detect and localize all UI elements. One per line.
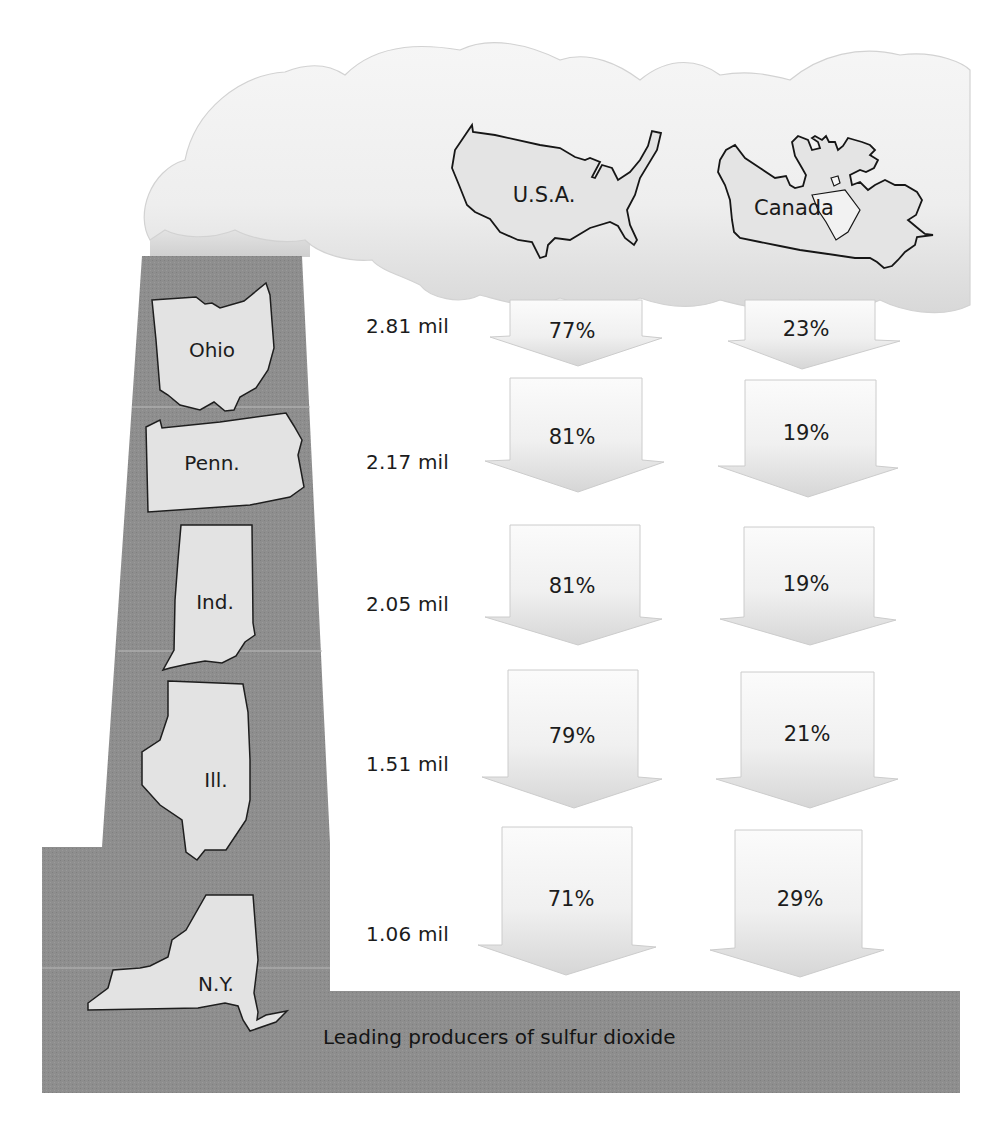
chart-title: Leading producers of sulfur dioxide: [323, 1025, 676, 1049]
emissions-penn: 2.17 mil: [366, 450, 449, 474]
usa-pct-penn: 81%: [549, 425, 596, 449]
canada-pct-ny: 29%: [777, 887, 824, 911]
state-label-penn: Penn.: [184, 451, 239, 475]
arrows-usa: [478, 300, 664, 975]
canada-pct-penn: 19%: [783, 421, 830, 445]
arrows-canada: [710, 300, 900, 977]
canada-pct-ind: 19%: [783, 572, 830, 596]
infographic-graphics: [0, 0, 1006, 1122]
canada-pct-ohio: 23%: [783, 317, 830, 341]
state-label-ind: Ind.: [196, 590, 234, 614]
emissions-ill: 1.51 mil: [366, 752, 449, 776]
state-label-ill: Ill.: [204, 768, 227, 792]
usa-pct-ohio: 77%: [549, 319, 596, 343]
usa-pct-ind: 81%: [549, 574, 596, 598]
usa-pct-ill: 79%: [549, 724, 596, 748]
emissions-ohio: 2.81 mil: [366, 314, 449, 338]
emissions-ny: 1.06 mil: [366, 922, 449, 946]
country-label-usa: U.S.A.: [513, 183, 576, 207]
usa-pct-ny: 71%: [548, 887, 595, 911]
canada-pct-ill: 21%: [784, 722, 831, 746]
country-label-canada: Canada: [754, 196, 834, 220]
state-label-ohio: Ohio: [189, 338, 235, 362]
emissions-ind: 2.05 mil: [366, 592, 449, 616]
state-label-ny: N.Y.: [198, 972, 234, 996]
